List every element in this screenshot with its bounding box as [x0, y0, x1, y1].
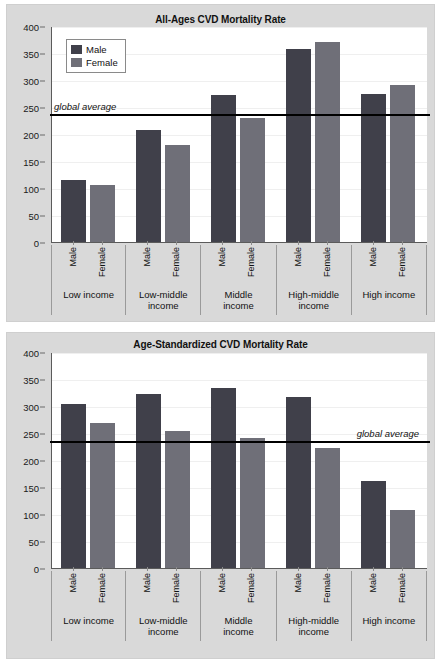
- y-tick-mark-300-age-standardized: [40, 407, 45, 408]
- category-label-low-middle-income-age-standardized: Low-middleincome: [126, 616, 200, 637]
- x-tick-label-female-age-standardized-1: Female: [171, 573, 181, 603]
- x-tick-label-female-age-standardized-3: Female: [322, 573, 332, 603]
- y-tick-mark-350-all-ages: [40, 54, 45, 55]
- y-tick-mark-150-age-standardized: [40, 488, 45, 489]
- y-axis-age-standardized: 400350300250200150100500: [7, 353, 45, 569]
- category-label-high-middle-income-all-ages: High-middleincome: [277, 290, 351, 311]
- x-tick-mark-all-ages-1-0: [147, 241, 148, 245]
- y-tick-label-250-age-standardized: 250: [23, 429, 39, 440]
- x-tick-mark-age-standardized-1-1: [176, 567, 177, 571]
- x-tick-mark-age-standardized-4-1: [402, 567, 403, 571]
- x-tick-mark-all-ages-4-0: [373, 241, 374, 245]
- category-label-low-middle-income-all-ages: Low-middleincome: [126, 290, 200, 311]
- global-average-line-age-standardized: [50, 441, 430, 443]
- x-tick-mark-age-standardized-0-1: [102, 567, 103, 571]
- gridline-400-all-ages: [52, 27, 427, 28]
- legend-all-ages: MaleFemale: [66, 39, 126, 73]
- x-tick-label-female-all-ages-0: Female: [97, 247, 107, 277]
- category-group-low-income-all-ages: MaleFemaleLow income: [51, 245, 126, 315]
- legend-swatch-female-icon: [71, 58, 82, 67]
- gridline-350-age-standardized: [52, 380, 427, 381]
- bar-male-low-income-all-ages: [61, 180, 86, 242]
- series-labels-all-ages-3: MaleFemale: [277, 245, 351, 289]
- category-group-low-middle-income-age-standardized: MaleFemaleLow-middleincome: [126, 571, 201, 641]
- category-group-middle-income-all-ages: MaleFemaleMiddleincome: [201, 245, 276, 315]
- bar-female-high-middle-income-all-ages: [315, 42, 340, 242]
- y-tick-mark-300-all-ages: [40, 81, 45, 82]
- y-tick-label-100-age-standardized: 100: [23, 510, 39, 521]
- bar-male-middle-income-all-ages: [211, 95, 236, 242]
- bar-female-low-middle-income-all-ages: [165, 145, 190, 242]
- legend-item-female[interactable]: Female: [71, 56, 118, 69]
- bar-male-low-income-age-standardized: [61, 404, 86, 568]
- y-tick-mark-150-all-ages: [40, 162, 45, 163]
- y-tick-mark-100-all-ages: [40, 189, 45, 190]
- x-tick-mark-age-standardized-3-1: [327, 567, 328, 571]
- y-tick-mark-50-all-ages: [40, 216, 45, 217]
- y-tick-mark-50-age-standardized: [40, 542, 45, 543]
- category-label-high-middle-income-age-standardized: High-middleincome: [277, 616, 351, 637]
- category-label-middle-income-all-ages: Middleincome: [201, 290, 275, 311]
- bar-male-low-middle-income-all-ages: [136, 130, 161, 242]
- y-tick-label-150-age-standardized: 150: [23, 483, 39, 494]
- global-average-label-all-ages: global average: [54, 101, 116, 112]
- y-tick-label-50-all-ages: 50: [28, 211, 39, 222]
- y-tick-mark-200-all-ages: [40, 135, 45, 136]
- category-group-high-middle-income-age-standardized: MaleFemaleHigh-middleincome: [277, 571, 352, 641]
- global-average-label-age-standardized: global average: [357, 428, 419, 439]
- series-labels-age-standardized-3: MaleFemale: [277, 571, 351, 615]
- chart-title-all-ages: All-Ages CVD Mortality Rate: [7, 14, 434, 25]
- y-tick-mark-200-age-standardized: [40, 461, 45, 462]
- x-tick-label-male-age-standardized-0: Male: [68, 573, 78, 593]
- y-tick-label-300-age-standardized: 300: [23, 402, 39, 413]
- category-label-middle-income-age-standardized: Middleincome: [201, 616, 275, 637]
- bar-male-high-middle-income-all-ages: [286, 49, 311, 242]
- y-axis-all-ages: 400350300250200150100500: [7, 27, 45, 243]
- x-tick-label-male-age-standardized-2: Male: [217, 573, 227, 593]
- plot-wrap-age-standardized: 400350300250200150100500 global average …: [7, 353, 434, 653]
- legend-label-female: Female: [86, 57, 118, 68]
- bar-male-low-middle-income-age-standardized: [136, 394, 161, 568]
- series-labels-all-ages-4: MaleFemale: [352, 245, 426, 289]
- bar-female-low-income-age-standardized: [90, 423, 115, 568]
- x-tick-mark-all-ages-0-1: [102, 241, 103, 245]
- x-tick-label-male-all-ages-0: Male: [68, 247, 78, 267]
- x-tick-label-female-all-ages-2: Female: [246, 247, 256, 277]
- x-tick-label-female-age-standardized-0: Female: [97, 573, 107, 603]
- gridline-400-age-standardized: [52, 353, 427, 354]
- x-tick-mark-all-ages-3-1: [327, 241, 328, 245]
- bar-male-middle-income-age-standardized: [211, 388, 236, 568]
- series-labels-all-ages-2: MaleFemale: [201, 245, 275, 289]
- x-tick-mark-age-standardized-1-0: [147, 567, 148, 571]
- x-tick-label-male-age-standardized-3: Male: [293, 573, 303, 593]
- x-tick-label-female-all-ages-3: Female: [322, 247, 332, 277]
- bar-female-middle-income-age-standardized: [240, 438, 265, 568]
- y-tick-label-150-all-ages: 150: [23, 157, 39, 168]
- plot-area-age-standardized: global average: [51, 353, 427, 569]
- x-tick-mark-all-ages-3-0: [298, 241, 299, 245]
- legend-item-male[interactable]: Male: [71, 43, 118, 56]
- x-tick-label-female-all-ages-1: Female: [171, 247, 181, 277]
- category-axis-all-ages: MaleFemaleLow incomeMaleFemaleLow-middle…: [51, 245, 427, 315]
- x-tick-label-male-all-ages-1: Male: [142, 247, 152, 267]
- y-tick-label-200-all-ages: 200: [23, 130, 39, 141]
- x-tick-mark-all-ages-2-1: [251, 241, 252, 245]
- series-labels-all-ages-0: MaleFemale: [52, 245, 125, 289]
- legend-swatch-male-icon: [71, 45, 82, 54]
- x-tick-mark-all-ages-1-1: [176, 241, 177, 245]
- category-group-low-middle-income-all-ages: MaleFemaleLow-middleincome: [126, 245, 201, 315]
- y-tick-mark-250-age-standardized: [40, 434, 45, 435]
- bar-female-high-income-age-standardized: [390, 510, 415, 568]
- y-tick-label-0-all-ages: 0: [34, 238, 39, 249]
- category-label-low-income-all-ages: Low income: [52, 290, 125, 301]
- bar-female-high-income-all-ages: [390, 85, 415, 242]
- x-tick-label-male-age-standardized-1: Male: [142, 573, 152, 593]
- category-label-high-income-age-standardized: High income: [352, 616, 426, 627]
- bar-female-high-middle-income-age-standardized: [315, 448, 340, 568]
- y-tick-mark-250-all-ages: [40, 108, 45, 109]
- x-tick-mark-all-ages-0-0: [73, 241, 74, 245]
- x-tick-label-female-age-standardized-2: Female: [246, 573, 256, 603]
- x-tick-mark-age-standardized-3-0: [298, 567, 299, 571]
- series-labels-age-standardized-2: MaleFemale: [201, 571, 275, 615]
- y-tick-label-400-age-standardized: 400: [23, 348, 39, 359]
